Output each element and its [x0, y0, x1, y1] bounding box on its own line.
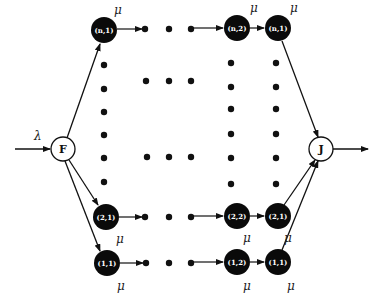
- ellipsis-dot: [188, 26, 194, 32]
- ellipsis-dot: [101, 109, 107, 115]
- mu-label: μ: [114, 3, 122, 17]
- ellipsis-dot: [188, 214, 194, 220]
- ellipsis-dot: [101, 155, 107, 161]
- queue-node-11_right: (1,1)μ: [265, 249, 295, 293]
- svg-text:J: J: [317, 143, 323, 156]
- ellipsis-dot: [101, 132, 107, 138]
- queue-nodes: (n,1)μ(n,2)μ(n,1)μ(2,1)μ(2,2)μ(2,1)μ(1,1…: [91, 1, 298, 293]
- ellipsis-dot: [273, 60, 279, 66]
- ellipsis-dot: [101, 86, 107, 92]
- ellipsis-dot: [143, 78, 149, 84]
- mu-label: μ: [290, 1, 298, 15]
- svg-text:F: F: [59, 143, 67, 156]
- mu-label: μ: [287, 279, 295, 293]
- fork-node: F: [51, 137, 75, 161]
- ellipsis-dot: [166, 78, 172, 84]
- mu-label: μ: [243, 231, 251, 245]
- queue-node-22: (2,2)μ: [224, 203, 251, 245]
- queue-label: (2,2): [228, 212, 247, 221]
- edge-21-join: [284, 160, 315, 205]
- queue-node-12: (1,2)μ: [224, 249, 251, 293]
- queue-label: (n,2): [227, 24, 246, 33]
- mu-label: μ: [250, 1, 258, 15]
- ellipsis-dot: [188, 78, 194, 84]
- ellipsis-dot: [188, 154, 194, 160]
- ellipsis-dot: [273, 106, 279, 112]
- queue-label: (n,1): [268, 24, 287, 33]
- queue-label: (2,1): [269, 212, 288, 221]
- queue-label: (1,1): [98, 259, 117, 268]
- lambda-label: λ: [33, 129, 42, 143]
- ellipsis-dot: [228, 106, 234, 112]
- queue-node-n1_left: (n,1)μ: [91, 3, 122, 43]
- ellipsis-dot: [228, 181, 234, 187]
- ellipsis-dot: [228, 131, 234, 137]
- ellipsis-dot: [101, 179, 107, 185]
- mu-label: μ: [116, 232, 124, 246]
- join-node: J: [309, 137, 333, 161]
- ellipsis-dot: [101, 62, 107, 68]
- ellipsis-dot: [142, 26, 148, 32]
- ellipsis-dot: [166, 260, 172, 266]
- diagram-svg: λ F J (n,1)μ(n,2)μ(n,1)μ(2,1)μ(2,2)μ(2,1…: [0, 0, 378, 303]
- edge-fork-n1: [67, 44, 100, 138]
- edge-fork-11: [65, 161, 100, 251]
- queue-node-11_left: (1,1)μ: [94, 250, 125, 293]
- ellipsis-dot: [228, 60, 234, 66]
- ellipsis-dot: [144, 154, 150, 160]
- ellipsis-dot: [273, 181, 279, 187]
- queue-node-21_right: (2,1)μ: [265, 203, 292, 245]
- queue-node-21_left: (2,1)μ: [93, 204, 124, 246]
- mu-label: μ: [284, 231, 292, 245]
- ellipsis-dot: [143, 260, 149, 266]
- ellipsis-dot: [166, 214, 172, 220]
- mu-label: μ: [117, 279, 125, 293]
- ellipsis-dot: [166, 154, 172, 160]
- queue-label: (n,1): [94, 26, 113, 35]
- ellipsis-dot: [166, 26, 172, 32]
- ellipsis-dot: [142, 214, 148, 220]
- queueing-network-diagram: λ F J (n,1)μ(n,2)μ(n,1)μ(2,1)μ(2,2)μ(2,1…: [0, 0, 378, 303]
- ellipsis-dot: [188, 260, 194, 266]
- queue-node-n1_right: (n,1)μ: [265, 1, 298, 41]
- queue-node-n2: (n,2)μ: [224, 1, 258, 41]
- queue-label: (2,1): [97, 213, 116, 222]
- mu-label: μ: [243, 279, 251, 293]
- ellipsis-dot: [273, 155, 279, 161]
- ellipsis-dot: [273, 84, 279, 90]
- queue-label: (1,1): [269, 258, 288, 267]
- ellipsis-dot: [273, 131, 279, 137]
- edge-n1-join: [282, 41, 318, 137]
- ellipsis-dots: [101, 26, 279, 266]
- ellipsis-dot: [228, 155, 234, 161]
- ellipsis-dot: [228, 84, 234, 90]
- queue-label: (1,2): [228, 258, 247, 267]
